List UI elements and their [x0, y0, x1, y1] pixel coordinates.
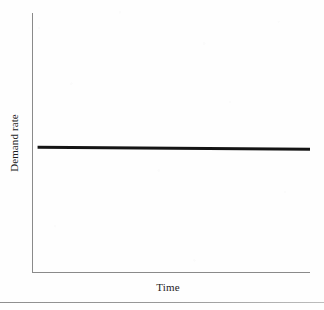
plot-series-layer — [0, 0, 324, 310]
x-axis-label: Time — [108, 281, 228, 293]
page-separator-rule — [0, 302, 324, 303]
y-axis-label: Demand rate — [8, 73, 20, 213]
chart-figure: Demand rate Time — [0, 0, 324, 310]
demand-rate-line — [38, 147, 310, 149]
